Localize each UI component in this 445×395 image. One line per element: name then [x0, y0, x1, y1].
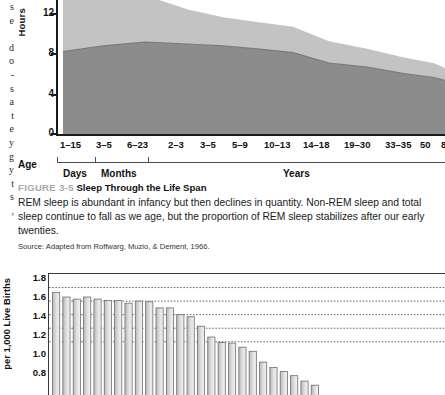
x-tick-label: 10–13 — [264, 139, 290, 150]
bar — [125, 303, 132, 395]
caption-title: Sleep Through the Life Span — [76, 182, 206, 193]
bar — [208, 337, 215, 395]
x-axis-tick-labels-top: 1–153–56–232–33–55–910–1314–1819–3033–35… — [0, 139, 445, 152]
bar — [135, 301, 142, 395]
bar-chart-plot — [48, 273, 445, 395]
bar — [187, 317, 194, 395]
bar — [301, 381, 308, 395]
axis-group-label-age: Age — [18, 159, 37, 170]
bar — [177, 315, 184, 395]
y-tick-label-1.2: 1.2 — [33, 330, 46, 340]
bar — [166, 308, 173, 395]
bar — [218, 342, 225, 395]
caption-body-text: REM sleep is abundant in infancy but the… — [18, 196, 438, 239]
x-tick-label: 2–3 — [168, 139, 184, 150]
y-tick-label-1.6: 1.6 — [33, 292, 46, 302]
x-tick-label: 3–5 — [96, 139, 112, 150]
bar — [239, 347, 246, 395]
margin-glyph: , — [0, 204, 14, 218]
age-bracket-tick-months-years — [148, 157, 149, 163]
x-tick-label: 5–9 — [232, 139, 248, 150]
unit-label-years: Years — [283, 168, 310, 179]
bar — [156, 308, 163, 395]
x-tick-label: 14–18 — [303, 139, 329, 150]
x-tick-label: 3–5 — [200, 139, 216, 150]
caption-figure-number: FIGURE 3-5 — [18, 182, 74, 193]
bar — [260, 362, 267, 395]
bar — [53, 292, 60, 395]
bar — [94, 299, 101, 395]
margin-glyph: s — [0, 190, 14, 204]
y-tick-label-0.8: 0.8 — [33, 368, 46, 378]
bar — [270, 368, 277, 395]
figure-caption-block: FIGURE 3-5 Sleep Through the Life Span R… — [18, 182, 445, 252]
bar — [146, 302, 153, 395]
x-tick-label: 1–15 — [60, 139, 81, 150]
age-bracket-tick-start — [57, 157, 58, 163]
bar — [197, 326, 204, 395]
bar — [280, 372, 287, 395]
bar — [84, 297, 91, 395]
y-axis-tick-labels-bottom: 1.81.61.41.21.00.8 — [14, 262, 46, 395]
x-tick-label: 8 — [441, 139, 445, 150]
bar — [104, 300, 111, 395]
bar — [291, 376, 298, 395]
y-tick-label-1.4: 1.4 — [33, 311, 46, 321]
figure-bar-chart-rate: per 1,000 Live Births 1.81.61.41.21.00.8 — [0, 262, 445, 395]
bar-chart-svg — [49, 274, 445, 395]
bar — [63, 297, 70, 395]
bar — [311, 385, 318, 395]
y-tick-label-1.0: 1.0 — [33, 349, 46, 359]
bar — [73, 299, 80, 395]
y-tick-label-1.8: 1.8 — [33, 273, 46, 283]
x-tick-label: 19–30 — [344, 139, 370, 150]
x-axis-line-top — [56, 134, 445, 136]
caption-heading: FIGURE 3-5 Sleep Through the Life Span — [18, 182, 445, 194]
age-bracket-line — [57, 162, 445, 163]
figure-sleep-across-lifespan: Hours 12840 1–153–56–232–33–55–910–1314–… — [0, 0, 445, 182]
x-tick-label: 50 — [420, 139, 431, 150]
unit-label-months: Months — [101, 168, 137, 179]
caption-source-line: Source: Adapted from Roffwarg, Muzio, & … — [18, 242, 445, 252]
textbook-page-screenshot: sedo-sateygyts, Hours 12840 1–153–56–232… — [0, 0, 445, 395]
age-bracket-tick-days-months — [95, 157, 96, 163]
x-tick-label: 6–23 — [127, 139, 148, 150]
bar — [115, 300, 122, 395]
unit-label-days: Days — [63, 168, 87, 179]
y-axis-tick-labels-top: 12840 — [26, 0, 54, 140]
area-chart-svg — [57, 0, 445, 134]
x-tick-label: 33–35 — [385, 139, 411, 150]
y-axis-label-per-1000-live-births: per 1,000 Live Births — [1, 278, 12, 370]
area-chart-plot — [57, 0, 445, 134]
bar — [249, 351, 256, 395]
bar — [228, 343, 235, 395]
